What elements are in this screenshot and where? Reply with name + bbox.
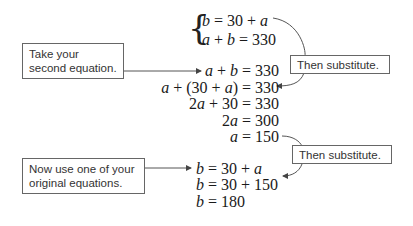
solve-b-step-3: b = 180: [196, 194, 245, 210]
callout-then-substitute-1: Then substitute.: [290, 55, 390, 74]
system-eq-2: a + b = 330: [202, 32, 276, 48]
system-eq-1: b = 30 + a: [202, 13, 268, 29]
solve-a-step-3: 2a + 30 = 330: [189, 96, 279, 112]
solve-b-step-1: b = 30 + a: [196, 161, 262, 177]
solve-a-step-2: a + (30 + a) = 330: [161, 80, 279, 96]
solve-a-step-5: a = 150: [230, 129, 279, 145]
solve-a-step-4: 2a = 300: [222, 113, 279, 129]
solve-a-step-1: a + b = 330: [205, 63, 279, 79]
callout-then-substitute-2: Then substitute.: [292, 145, 392, 164]
callout-use-original: Now use one of your original equations.: [22, 158, 145, 194]
solve-b-step-2: b = 30 + 150: [196, 177, 278, 193]
callout-take-second: Take your second equation.: [22, 43, 124, 79]
